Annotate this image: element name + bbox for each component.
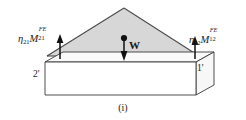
right-moment-indices: FE12 <box>209 32 218 43</box>
load-triangle-group <box>47 8 199 56</box>
left-arrow-head <box>57 34 64 43</box>
dimension-label-right: 1' <box>197 64 203 74</box>
right-moment-subscript: 12 <box>209 36 215 43</box>
left-moment-symbol: M <box>30 33 39 44</box>
dimension-label-left: 2' <box>33 70 39 80</box>
figure-caption: (i) <box>0 103 246 113</box>
left-moment-subscript: 21 <box>38 35 44 42</box>
slab-group <box>45 52 214 95</box>
left-moment-label: η21MFE21 <box>18 31 47 44</box>
left-eta-subscript: 21 <box>23 38 29 45</box>
right-eta-subscript: 12 <box>194 39 200 46</box>
right-moment-label: η12MFE12 <box>189 32 218 45</box>
right-moment-superscript: FE <box>210 27 218 33</box>
load-triangle-fill <box>47 8 199 56</box>
left-moment-superscript: FE <box>39 26 47 32</box>
structural-load-figure: η21MFE21 η12MFE12 W 2' 1' (i) <box>0 0 246 120</box>
slab-top-face <box>45 52 214 62</box>
left-moment-indices: FE21 <box>38 31 47 42</box>
slab-front-face <box>45 62 196 95</box>
weight-label: W <box>129 40 140 51</box>
right-moment-symbol: M <box>201 34 210 45</box>
